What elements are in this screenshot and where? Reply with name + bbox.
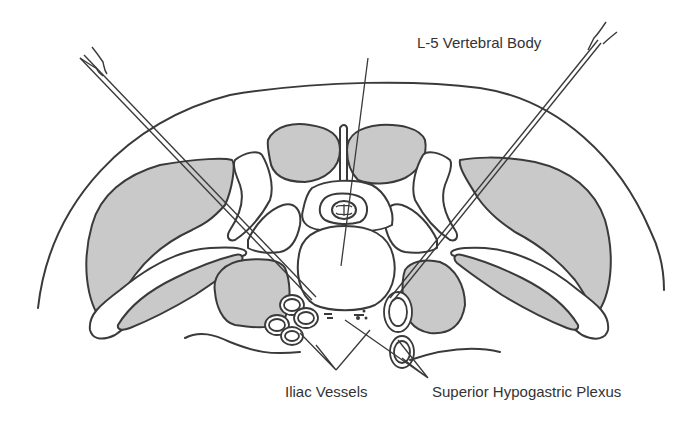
iliac-vessels-leader [300,330,370,370]
iliac-vessels-right [384,292,414,368]
spinous-process [340,125,347,182]
label-vertebral-body: L-5 Vertebral Body [417,34,541,51]
label-hypogastric-plexus: Superior Hypogastric Plexus [432,383,621,400]
hypogastric-plexus-leader [345,320,428,378]
vertebral-body [298,226,395,310]
anatomy-diagram [0,0,687,437]
spinous-process-muscles [268,124,340,182]
label-iliac-vessels: Iliac Vessels [285,383,368,400]
lower-tissue-outline [185,334,500,360]
